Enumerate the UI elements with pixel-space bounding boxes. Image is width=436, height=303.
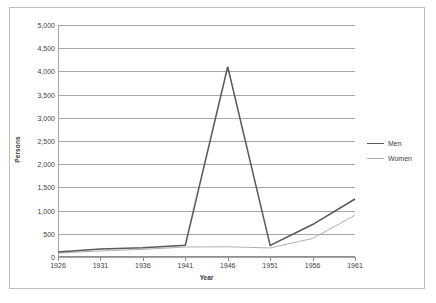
y-tick-label: 500 <box>43 230 55 237</box>
plot-lines <box>58 25 355 257</box>
x-tick-label: 1936 <box>135 262 151 269</box>
chart-legend: MenWomen <box>367 136 436 166</box>
x-tick-label: 1946 <box>220 262 236 269</box>
plot-area <box>58 25 355 257</box>
y-axis-title: Persons <box>10 8 24 290</box>
x-axis-tick-labels: 19261931193619411946195119561961 <box>58 262 355 274</box>
y-tick-label: 4,000 <box>37 68 55 75</box>
x-tick-mark <box>100 257 101 261</box>
x-tick-mark <box>313 257 314 261</box>
legend-label: Women <box>388 155 412 162</box>
x-tick-label: 1926 <box>50 262 66 269</box>
y-tick-label: 1,000 <box>37 207 55 214</box>
legend-swatch-women <box>367 158 384 159</box>
y-tick-label: 4,500 <box>37 45 55 52</box>
x-tick-label: 1941 <box>177 262 193 269</box>
x-tick-mark <box>228 257 229 261</box>
y-tick-label: 2,000 <box>37 161 55 168</box>
y-tick-label: 0 <box>51 254 55 261</box>
x-tick-mark <box>355 257 356 261</box>
series-line-women <box>58 215 355 253</box>
x-tick-mark <box>185 257 186 261</box>
legend-label: Men <box>388 140 402 147</box>
legend-item-women[interactable]: Women <box>367 151 436 166</box>
y-tick-label: 3,000 <box>37 114 55 121</box>
y-axis-tick-labels: 05001,0001,5002,0002,5003,0003,5004,0004… <box>24 25 57 257</box>
y-tick-label: 1,500 <box>37 184 55 191</box>
y-tick-label: 2,500 <box>37 138 55 145</box>
x-tick-label: 1931 <box>93 262 109 269</box>
y-axis-title-label: Persons <box>14 136 21 162</box>
legend-swatch-men <box>367 143 384 144</box>
x-tick-label: 1951 <box>262 262 278 269</box>
x-tick-label: 1956 <box>305 262 321 269</box>
chart-container: Persons 05001,0001,5002,0002,5003,0003,5… <box>9 7 425 289</box>
x-axis-title: Year <box>58 274 355 281</box>
legend-item-men[interactable]: Men <box>367 136 436 151</box>
x-tick-mark <box>143 257 144 261</box>
x-tick-mark <box>58 257 59 261</box>
y-tick-label: 3,500 <box>37 91 55 98</box>
series-line-men <box>58 67 355 252</box>
x-tick-mark <box>270 257 271 261</box>
y-tick-label: 5,000 <box>37 22 55 29</box>
x-tick-label: 1961 <box>347 262 363 269</box>
